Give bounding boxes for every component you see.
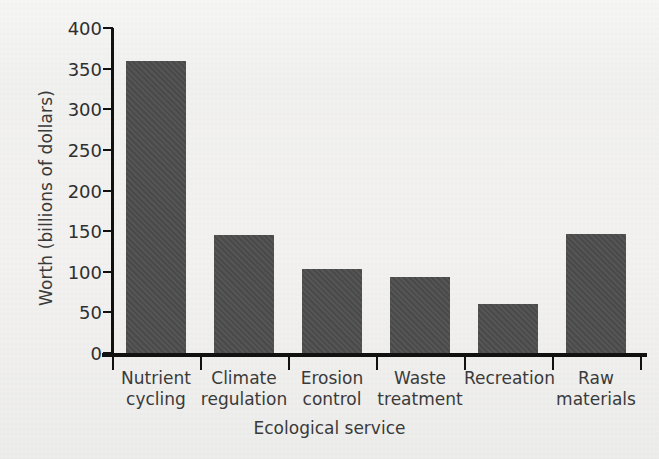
bar-slot — [200, 28, 288, 353]
x-axis-tick-label: Erosioncontrol — [288, 368, 376, 410]
x-axis-tick-labels: NutrientcyclingClimateregulationErosionc… — [112, 368, 645, 418]
x-axis-tick-label: Recreation — [464, 368, 552, 389]
y-axis-tick-label: 350 — [46, 58, 102, 79]
bar-slot — [112, 28, 200, 353]
x-axis-tick-label: Climateregulation — [200, 368, 288, 410]
x-axis-tick-label-line: Recreation — [464, 368, 552, 389]
x-axis-tick-label-line: treatment — [376, 389, 464, 410]
x-axis-tick-label: Nutrientcycling — [112, 368, 200, 410]
x-axis-tick-label-line: control — [288, 389, 376, 410]
bar-slot — [552, 28, 640, 353]
bar[interactable] — [126, 61, 186, 354]
y-axis-tick-label: 100 — [46, 261, 102, 282]
y-axis-tick-label: 150 — [46, 221, 102, 242]
y-axis-tick-label: 50 — [46, 302, 102, 323]
x-axis-tick-label-line: regulation — [200, 389, 288, 410]
x-axis-tick-label-line: Nutrient — [112, 368, 200, 389]
x-axis-tick-label-line: Climate — [200, 368, 288, 389]
bar[interactable] — [478, 304, 538, 353]
bar-slot — [288, 28, 376, 353]
x-axis-tick-label: Rawmaterials — [552, 368, 640, 410]
x-axis-tick-label-line: Waste — [376, 368, 464, 389]
bar-slot — [376, 28, 464, 353]
x-axis-title: Ecological service — [0, 418, 659, 438]
y-axis-tick-label: 200 — [46, 180, 102, 201]
x-axis-line — [102, 353, 647, 357]
x-axis-tick-label-line: Raw — [552, 368, 640, 389]
y-axis-tick-label: 250 — [46, 139, 102, 160]
bar-slot — [464, 28, 552, 353]
plot-area — [112, 28, 645, 353]
bar[interactable] — [390, 277, 450, 353]
bar[interactable] — [566, 234, 626, 353]
bar[interactable] — [214, 235, 274, 353]
x-axis-tick-label-line: Erosion — [288, 368, 376, 389]
x-axis-tick-label: Wastetreatment — [376, 368, 464, 410]
y-axis-tick-labels: 050100150200250300350400 — [46, 0, 102, 459]
bar-chart-figure: Worth (billions of dollars) 050100150200… — [0, 0, 659, 459]
x-axis-tick-label-line: materials — [552, 389, 640, 410]
y-axis-tick-label: 0 — [46, 343, 102, 364]
x-axis-tick-label-line: cycling — [112, 389, 200, 410]
y-axis-tick-label: 300 — [46, 99, 102, 120]
bar[interactable] — [302, 269, 362, 353]
y-axis-tick-label: 400 — [46, 18, 102, 39]
